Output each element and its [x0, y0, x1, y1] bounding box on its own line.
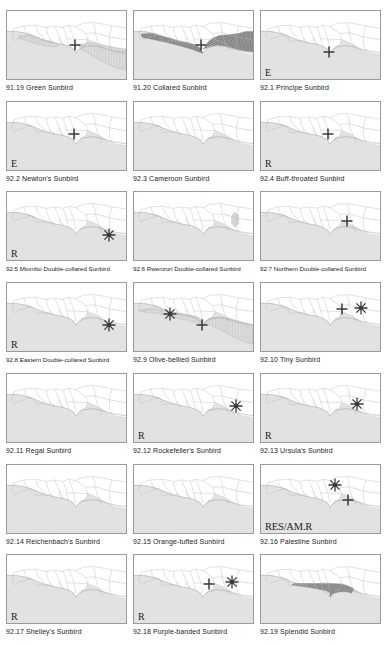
map-caption: 92.18 Purple-banded Sunbird [133, 627, 254, 636]
africa-map [261, 374, 380, 442]
map-cell[interactable]: R92.13 Ursula's Sunbird [260, 373, 381, 460]
africa-map [7, 283, 126, 351]
map-caption: 92.3 Cameroon Sunbird [133, 174, 254, 183]
africa-map [261, 11, 380, 79]
africa-map [7, 374, 126, 442]
map-caption: 92.15 Orange-tufted Sunbird [133, 537, 254, 546]
africa-map [134, 102, 253, 170]
map-caption: 92.19 Splendid Sunbird [260, 627, 381, 636]
map-caption: 91.20 Collared Sunbird [133, 83, 254, 92]
map-cell[interactable]: 91.20 Collared Sunbird [133, 10, 254, 97]
map-frame[interactable] [133, 10, 254, 80]
map-frame[interactable]: R [260, 373, 381, 443]
map-cell[interactable]: 92.7 Northern Double-collared Sunbird [260, 191, 381, 278]
map-frame[interactable] [260, 282, 381, 352]
map-frame[interactable] [133, 282, 254, 352]
map-frame[interactable]: R [6, 282, 127, 352]
status-code-label: R [138, 430, 145, 441]
map-caption: 92.7 Northern Double-collared Sunbird [260, 264, 381, 273]
map-frame[interactable]: R [133, 554, 254, 624]
map-caption: 92.9 Olive-bellied Sunbird [133, 355, 254, 364]
map-frame[interactable]: E [260, 10, 381, 80]
map-caption: 92.12 Rockefeller's Sunbird [133, 446, 254, 455]
status-code-label: RES/AM.R [265, 521, 312, 532]
map-cell[interactable]: 91.19 Green Sunbird [6, 10, 127, 97]
map-cell[interactable]: 92.6 Rwenzori Double-collared Sunbird [133, 191, 254, 278]
map-frame[interactable] [133, 191, 254, 261]
map-cell[interactable]: 92.11 Regal Sunbird [6, 373, 127, 460]
map-cell[interactable]: E92.1 Principe Sunbird [260, 10, 381, 97]
africa-map [134, 283, 253, 351]
status-code-label: R [11, 339, 18, 350]
africa-map [261, 192, 380, 260]
africa-map [7, 192, 126, 260]
map-cell[interactable]: 92.14 Reichenbach's Sunbird [6, 464, 127, 551]
status-code-label: E [265, 67, 271, 78]
africa-map [134, 555, 253, 623]
map-cell[interactable]: 92.15 Orange-tufted Sunbird [133, 464, 254, 551]
status-code-label: R [265, 158, 272, 169]
map-grid: 91.19 Green Sunbird91.20 Collared Sunbir… [6, 10, 381, 641]
africa-map [261, 102, 380, 170]
map-caption: 92.16 Palestine Sunbird [260, 537, 381, 546]
map-caption: 92.11 Regal Sunbird [6, 446, 127, 455]
status-code-label: R [138, 611, 145, 622]
map-frame[interactable]: E [6, 101, 127, 171]
map-cell[interactable]: R92.18 Purple-banded Sunbird [133, 554, 254, 641]
map-frame[interactable]: R [260, 101, 381, 171]
map-frame[interactable] [260, 191, 381, 261]
map-cell[interactable]: RES/AM.R92.16 Palestine Sunbird [260, 464, 381, 551]
map-cell[interactable]: R92.17 Shelley's Sunbird [6, 554, 127, 641]
africa-map [7, 555, 126, 623]
africa-map [7, 11, 126, 79]
map-cell[interactable]: E92.2 Newton's Sunbird [6, 101, 127, 188]
africa-map [134, 192, 253, 260]
status-code-label: R [265, 430, 272, 441]
map-cell[interactable]: 92.9 Olive-bellied Sunbird [133, 282, 254, 369]
map-caption: 92.2 Newton's Sunbird [6, 174, 127, 183]
map-frame[interactable]: R [133, 373, 254, 443]
map-cell[interactable]: R92.5 Miombo Double-collared Sunbird [6, 191, 127, 278]
map-cell[interactable]: 92.10 Tiny Sunbird [260, 282, 381, 369]
map-caption: 92.13 Ursula's Sunbird [260, 446, 381, 455]
map-cell[interactable]: 92.3 Cameroon Sunbird [133, 101, 254, 188]
map-caption: 92.6 Rwenzori Double-collared Sunbird [133, 264, 254, 273]
map-caption: 92.5 Miombo Double-collared Sunbird [6, 264, 127, 273]
map-frame[interactable] [6, 373, 127, 443]
africa-map [7, 465, 126, 533]
africa-map [134, 374, 253, 442]
map-caption: 92.4 Buff-throated Sunbird [260, 174, 381, 183]
map-frame[interactable] [133, 101, 254, 171]
map-caption: 92.10 Tiny Sunbird [260, 355, 381, 364]
africa-map [134, 11, 253, 79]
map-cell[interactable]: R92.12 Rockefeller's Sunbird [133, 373, 254, 460]
map-frame[interactable] [6, 464, 127, 534]
africa-map [7, 102, 126, 170]
map-caption: 92.1 Principe Sunbird [260, 83, 381, 92]
map-caption: 92.14 Reichenbach's Sunbird [6, 537, 127, 546]
map-frame[interactable] [6, 10, 127, 80]
map-caption: 92.8 Eastern Double-collared Sunbird [6, 355, 127, 364]
status-code-label: E [11, 158, 17, 169]
map-caption: 91.19 Green Sunbird [6, 83, 127, 92]
map-frame[interactable]: R [6, 554, 127, 624]
status-code-label: R [11, 248, 18, 259]
status-code-label: R [11, 611, 18, 622]
map-cell[interactable]: R92.4 Buff-throated Sunbird [260, 101, 381, 188]
map-cell[interactable]: R92.8 Eastern Double-collared Sunbird [6, 282, 127, 369]
map-cell[interactable]: 92.19 Splendid Sunbird [260, 554, 381, 641]
map-frame[interactable]: RES/AM.R [260, 464, 381, 534]
figure-plate: 91.19 Green Sunbird91.20 Collared Sunbir… [0, 0, 387, 645]
africa-map [134, 465, 253, 533]
map-frame[interactable] [260, 554, 381, 624]
africa-map [261, 283, 380, 351]
map-frame[interactable]: R [6, 191, 127, 261]
map-caption: 92.17 Shelley's Sunbird [6, 627, 127, 636]
africa-map [261, 555, 380, 623]
map-frame[interactable] [133, 464, 254, 534]
